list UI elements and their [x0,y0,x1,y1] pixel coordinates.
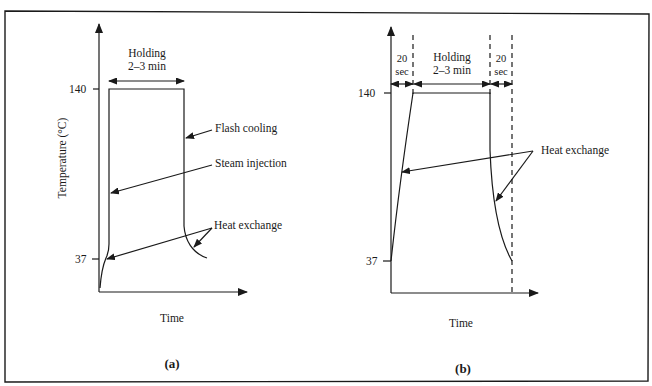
panel-a-ytick-37: 37 [75,253,87,266]
holding-text: Holding [433,51,471,64]
panel-a-ytick-140: 140 [69,83,86,96]
panel-b-holding-label: Holding 2–3 min [433,51,471,77]
panel-b-heat-exchange-label: Heat exchange [541,144,609,157]
panel-b-caption: (b) [455,362,471,375]
panel-a-holding-label: Holding 2–3 min [128,47,166,73]
figure-frame [5,11,649,382]
flash-cooling-arrow [186,130,212,138]
panel-b-ytick-140: 140 [358,87,375,100]
panel-a-caption: (a) [164,357,179,370]
phase-left-value: 20 [395,52,408,65]
panel-b-temperature-curve [391,93,512,261]
panel-b-phase-left-label: 20 sec [395,52,408,78]
panel-b-xlabel: Time [449,317,473,330]
steam-injection-label: Steam injection [215,157,287,170]
phase-left-unit: sec [395,65,408,78]
steam-injection-arrow [111,165,212,193]
heat-exchange-arrow-b1 [402,151,533,172]
holding-duration-text: 2–3 min [128,60,166,73]
heat-exchange-arrow-b2 [496,151,533,201]
panel-b-phase-right-label: 20 sec [494,52,507,78]
panel-a-heat-exchange-label: Heat exchange [214,219,282,232]
holding-text: Holding [128,47,166,60]
flash-cooling-label: Flash cooling [215,122,277,135]
panel-a-ylabel: Temperature (°C) [56,108,68,208]
phase-right-value: 20 [494,52,507,65]
phase-right-unit: sec [494,65,507,78]
panel-a-temperature-curve [100,89,207,288]
panel-a-xlabel: Time [160,312,184,325]
panel-b-ytick-37: 37 [366,255,378,268]
diagram-canvas [0,0,652,386]
heat-exchange-arrow-a1 [107,228,212,259]
holding-duration-text: 2–3 min [433,64,471,77]
